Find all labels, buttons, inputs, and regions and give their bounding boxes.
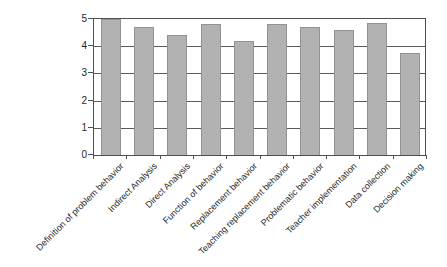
- y-axis-tick-label: 0: [65, 150, 87, 160]
- bar-8: [334, 30, 354, 155]
- x-axis-tick: [293, 155, 294, 159]
- y-axis-tick-label: 5: [65, 14, 87, 24]
- bar-10: [400, 53, 420, 155]
- bar-1: [101, 19, 121, 155]
- y-axis-tick: [88, 127, 93, 128]
- y-axis-tick-label: 2: [65, 96, 87, 106]
- y-axis-tick-label: 1: [65, 123, 87, 133]
- bar-6: [267, 24, 287, 155]
- x-axis-tick: [226, 155, 227, 159]
- y-axis-tick: [88, 45, 93, 46]
- bar-5: [234, 41, 254, 155]
- x-axis-tick: [326, 155, 327, 159]
- bar-2: [134, 27, 154, 155]
- plot-area: [93, 18, 426, 156]
- bar-4: [201, 24, 221, 155]
- y-axis-tick: [88, 100, 93, 101]
- x-axis-label-4: Function of behavior: [161, 161, 226, 226]
- x-axis-tick: [426, 155, 427, 159]
- bar-7: [300, 27, 320, 155]
- y-axis-tick: [88, 72, 93, 73]
- bar-3: [167, 35, 187, 155]
- y-axis-tick-label: 3: [65, 68, 87, 78]
- x-axis-tick: [126, 155, 127, 159]
- x-axis-tick: [260, 155, 261, 159]
- x-axis-tick: [193, 155, 194, 159]
- y-axis-tick: [88, 18, 93, 19]
- y-axis-tick-label: 4: [65, 41, 87, 51]
- figure-bar-chart: 012345Definition of problem behaviorIndi…: [0, 0, 447, 267]
- x-axis-tick: [93, 155, 94, 159]
- x-axis-tick: [393, 155, 394, 159]
- bar-9: [367, 23, 387, 155]
- x-axis-label-7: Problematic behavior: [259, 161, 326, 228]
- x-axis-tick: [160, 155, 161, 159]
- x-axis-tick: [359, 155, 360, 159]
